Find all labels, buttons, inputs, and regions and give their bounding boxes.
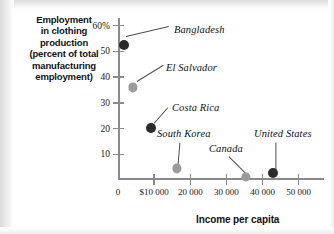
x-tick-2 <box>190 174 191 185</box>
x-tick-label-4: 40 000 <box>250 187 275 197</box>
page-edge-bottom-shading <box>0 227 334 234</box>
data-point-south-korea[interactable] <box>172 164 181 173</box>
data-point-el-salvador[interactable] <box>129 83 138 92</box>
data-point-united-states[interactable] <box>268 168 278 178</box>
leader-line-el-salvador <box>137 65 164 82</box>
leader-line-bangladesh <box>126 26 169 37</box>
y-tick-4 <box>113 128 124 129</box>
data-label-canada: Canada <box>209 143 243 154</box>
y-tick-5 <box>113 154 124 155</box>
data-label-united-states: United States <box>254 128 312 139</box>
page-edge-top-shading <box>0 0 334 9</box>
y-tick-2 <box>113 76 124 77</box>
y-axis-title-line-2: production <box>16 37 112 48</box>
leader-line-south-korea <box>177 143 180 167</box>
y-axis-title-line-4: manufacturing <box>16 60 112 71</box>
y-tick-0 <box>113 25 124 26</box>
x-tick-3 <box>226 174 227 185</box>
x-tick-1 <box>153 174 154 185</box>
y-tick-1 <box>113 51 124 52</box>
data-label-south-korea: South Korea <box>157 128 211 139</box>
y-axis-title-line-3: (percent of total <box>16 48 112 59</box>
y-tick-label-5: 10 <box>101 149 111 159</box>
y-tick-label-0: 60% <box>93 21 110 31</box>
data-label-bangladesh: Bangladesh <box>174 24 225 35</box>
data-label-costa-rica: Costa Rica <box>172 102 219 113</box>
x-tick-label-0: 0 <box>116 187 121 197</box>
x-axis-line <box>118 178 324 180</box>
chart-figure: Employmentin clothingproduction(percent … <box>0 0 334 234</box>
leader-line-costa-rica <box>154 107 169 124</box>
y-tick-label-2: 40 <box>101 72 111 82</box>
y-tick-3 <box>113 102 124 103</box>
data-point-costa-rica[interactable] <box>146 123 156 133</box>
data-point-bangladesh[interactable] <box>119 40 129 50</box>
x-tick-label-3: 30 000 <box>214 187 239 197</box>
x-tick-5 <box>298 174 299 185</box>
leader-line-united-states <box>275 143 276 171</box>
x-tick-4 <box>262 174 263 185</box>
y-tick-label-4: 20 <box>101 124 111 134</box>
x-tick-label-5: 50 000 <box>286 187 311 197</box>
x-tick-label-2: 20 000 <box>178 187 203 197</box>
y-tick-label-1: 50 <box>101 46 111 56</box>
page-edge-left-shading <box>0 0 14 234</box>
data-label-el-salvador: El Salvador <box>166 62 217 73</box>
page-edge-right-shading <box>328 0 334 234</box>
y-axis-title-line-5: employment) <box>16 71 112 82</box>
x-axis-title: Income per capita <box>196 214 279 225</box>
plot-area: 60%5040302010 0$10 00020 00030 00040 000… <box>118 18 324 180</box>
x-tick-label-1: $10 000 <box>140 187 169 197</box>
y-tick-label-3: 30 <box>101 98 111 108</box>
